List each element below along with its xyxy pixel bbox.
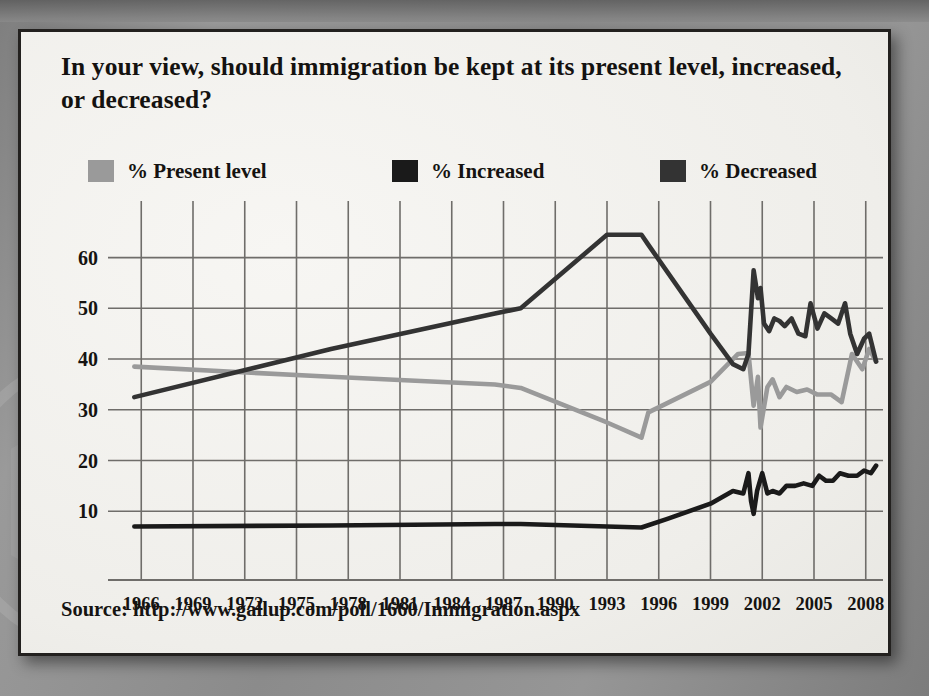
y-axis-tick-label: 60 — [78, 247, 98, 269]
x-axis-tick-label: 2005 — [796, 594, 833, 614]
x-axis-tick-label: 1996 — [640, 594, 677, 614]
chart-panel: In your view, should immigration be kept… — [18, 29, 891, 656]
y-axis-tick-label: 20 — [78, 450, 98, 472]
x-axis-tick-label: 2008 — [847, 594, 884, 614]
series-line — [134, 349, 876, 438]
source-note: Source: http://www.gallup.com/poll/1660/… — [61, 598, 580, 621]
x-axis-tick-label: 1999 — [692, 594, 729, 614]
plot-area: 1020304050601966196919721975197819811984… — [21, 32, 894, 659]
y-axis-tick-label: 10 — [78, 500, 98, 522]
y-axis-tick-label: 40 — [78, 348, 98, 370]
y-axis-tick-label: 50 — [78, 297, 98, 319]
line-chart-svg: 1020304050601966196919721975197819811984… — [21, 32, 894, 659]
series-line — [134, 466, 876, 528]
x-axis-tick-label: 1993 — [589, 594, 626, 614]
page-top-shadow — [0, 0, 929, 22]
y-axis-tick-label: 30 — [78, 399, 98, 421]
data-series — [134, 235, 876, 528]
x-axis-tick-label: 2002 — [744, 594, 781, 614]
